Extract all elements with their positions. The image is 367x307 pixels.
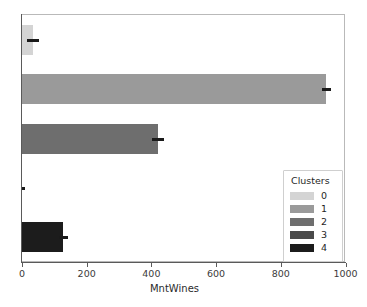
x-axis-label: MntWines <box>0 283 367 294</box>
legend-title: Clusters <box>291 176 336 186</box>
bar-cluster-2 <box>22 124 158 154</box>
legend-label-3: 3 <box>321 230 327 240</box>
figure-canvas: 02004006008001000 MntWines Clusters 0123… <box>0 0 367 307</box>
x-tick-label-200: 200 <box>78 268 96 279</box>
x-tick-label-1000: 1000 <box>333 268 357 279</box>
legend-swatch-3 <box>290 231 314 239</box>
legend-item-4[interactable]: 4 <box>290 242 336 255</box>
legend-items: 01234 <box>290 190 336 255</box>
error-bar-cluster-1 <box>322 88 331 91</box>
axis-spine-bottom <box>21 262 346 263</box>
legend-label-2: 2 <box>321 217 327 227</box>
x-tick-600 <box>216 263 217 267</box>
bar-cluster-1 <box>22 74 326 104</box>
x-tick-label-800: 800 <box>272 268 290 279</box>
x-tick-400 <box>151 263 152 267</box>
x-tick-200 <box>87 263 88 267</box>
legend-item-0[interactable]: 0 <box>290 190 336 203</box>
legend-swatch-4 <box>290 244 314 252</box>
error-bar-cluster-3 <box>22 187 25 190</box>
legend-swatch-1 <box>290 205 314 213</box>
legend-swatch-0 <box>290 192 314 200</box>
error-bar-cluster-0 <box>27 39 39 42</box>
error-bar-cluster-4 <box>59 236 68 239</box>
x-tick-0 <box>22 263 23 267</box>
x-axis-label-text: MntWines <box>150 283 199 294</box>
x-tick-label-600: 600 <box>207 268 225 279</box>
x-tick-label-0: 0 <box>19 268 25 279</box>
x-tick-1000 <box>346 263 347 267</box>
legend-label-0: 0 <box>321 191 327 201</box>
legend-box[interactable]: Clusters 01234 <box>283 170 343 262</box>
legend-item-3[interactable]: 3 <box>290 229 336 242</box>
legend-item-1[interactable]: 1 <box>290 203 336 216</box>
legend-item-2[interactable]: 2 <box>290 216 336 229</box>
x-tick-800 <box>281 263 282 267</box>
x-tick-label-400: 400 <box>142 268 160 279</box>
legend-swatch-2 <box>290 218 314 226</box>
legend-label-1: 1 <box>321 204 327 214</box>
legend-label-4: 4 <box>321 243 327 253</box>
error-bar-cluster-2 <box>152 138 164 141</box>
bar-cluster-4 <box>22 222 63 252</box>
